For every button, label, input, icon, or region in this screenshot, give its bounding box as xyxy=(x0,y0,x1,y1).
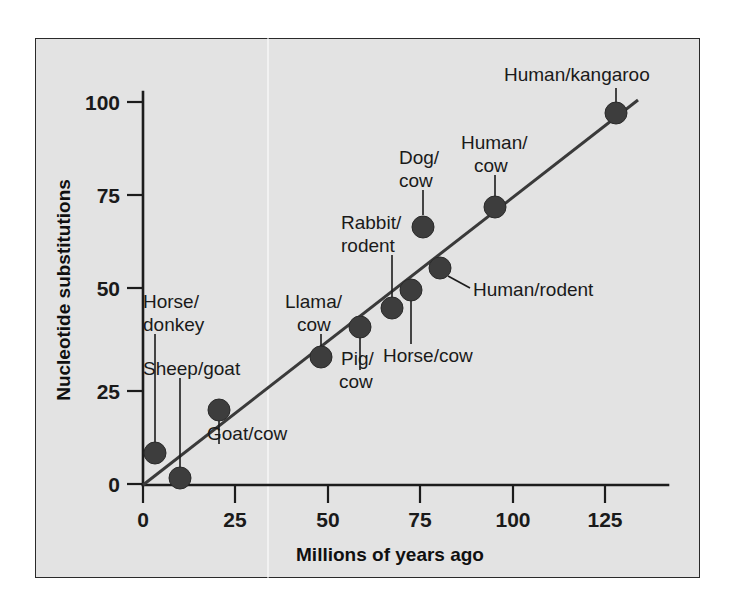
point-label-pig-cow-line2: cow xyxy=(339,371,373,392)
x-tick-label-75: 75 xyxy=(408,508,432,531)
x-tick-label-50: 50 xyxy=(316,508,339,531)
point-label-human-kangaroo: Human/kangaroo xyxy=(504,64,650,85)
datapoint-human-kangaroo[interactable] xyxy=(605,102,627,124)
x-axis-title: Millions of years ago xyxy=(296,544,484,565)
point-label-llama-cow-line1: Llama/ xyxy=(285,291,343,312)
y-tick-label-100: 100 xyxy=(85,91,120,114)
x-tick-label-125: 125 xyxy=(587,508,622,531)
point-labels-group: Horse/ donkey Sheep/goat Goat/cow Llama/… xyxy=(143,64,650,444)
point-label-dog-cow-line2: cow xyxy=(399,170,433,191)
datapoint-human-cow[interactable] xyxy=(484,196,506,218)
datapoint-rabbit-rodent[interactable] xyxy=(381,297,403,319)
y-tick-label-50: 50 xyxy=(97,277,120,300)
scatter-chart: 100 75 50 25 0 0 25 50 75 100 125 Millio… xyxy=(0,0,729,601)
datapoint-pig-cow[interactable] xyxy=(349,316,371,338)
point-label-human-rodent: Human/rodent xyxy=(473,279,594,300)
x-tick-label-0: 0 xyxy=(137,508,149,531)
x-axis-ticks: 0 25 50 75 100 125 xyxy=(137,485,623,531)
point-label-sheep-goat: Sheep/goat xyxy=(143,358,241,379)
datapoint-horse-cow[interactable] xyxy=(400,279,422,301)
y-tick-label-0: 0 xyxy=(108,473,120,496)
datapoint-sheep-goat[interactable] xyxy=(169,467,191,489)
point-label-horse-donkey-line2: donkey xyxy=(143,314,205,335)
y-axis-title: Nucleotide substitutions xyxy=(53,179,74,401)
point-label-pig-cow-line1: Pig/ xyxy=(341,348,374,369)
point-label-llama-cow-line2: cow xyxy=(297,314,331,335)
point-label-human-cow-line1: Human/ xyxy=(461,132,528,153)
figure-root: 100 75 50 25 0 0 25 50 75 100 125 Millio… xyxy=(0,0,729,601)
y-axis-ticks: 100 75 50 25 0 xyxy=(85,91,143,496)
y-tick-label-75: 75 xyxy=(97,184,121,207)
x-tick-label-25: 25 xyxy=(223,508,247,531)
y-tick-label-25: 25 xyxy=(97,380,121,403)
datapoint-horse-donkey[interactable] xyxy=(144,442,166,464)
x-tick-label-100: 100 xyxy=(495,508,530,531)
point-label-dog-cow-line1: Dog/ xyxy=(399,147,440,168)
leader-human-rodent xyxy=(448,276,470,288)
point-label-rabbit-rodent-line2: rodent xyxy=(341,235,396,256)
point-label-goat-cow: Goat/cow xyxy=(207,423,288,444)
point-label-rabbit-rodent-line1: Rabbit/ xyxy=(341,212,402,233)
point-label-horse-cow: Horse/cow xyxy=(383,345,473,366)
point-label-horse-donkey-line1: Horse/ xyxy=(143,291,200,312)
datapoint-llama-cow[interactable] xyxy=(310,346,332,368)
datapoint-dog-cow[interactable] xyxy=(412,216,434,238)
point-label-human-cow-line2: cow xyxy=(474,155,508,176)
datapoint-goat-cow[interactable] xyxy=(208,399,230,421)
datapoint-human-rodent[interactable] xyxy=(429,257,451,279)
